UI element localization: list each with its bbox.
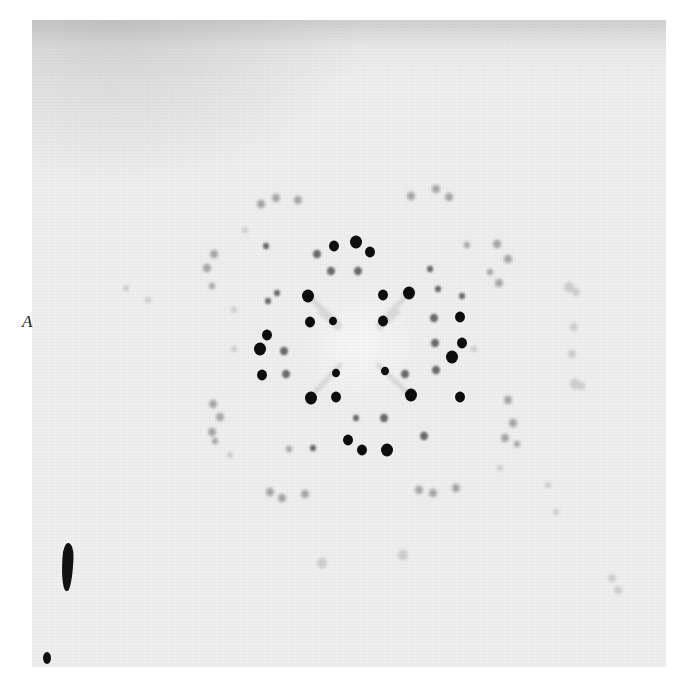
figure-caption-cutoff xyxy=(40,672,660,679)
diffraction-spot xyxy=(614,586,622,595)
diffraction-spot xyxy=(257,200,265,209)
diffraction-spot xyxy=(568,350,576,359)
diffraction-spot xyxy=(266,488,274,497)
diffraction-spot xyxy=(254,343,266,356)
diffraction-spot xyxy=(471,346,477,352)
diffraction-spot xyxy=(504,396,512,405)
diffraction-spot xyxy=(455,312,465,323)
diffraction-spot xyxy=(381,444,393,457)
diffraction-spot xyxy=(210,250,218,259)
diffraction-spot xyxy=(398,550,408,561)
diffraction-spot xyxy=(608,574,616,583)
diffraction-spot-layer xyxy=(32,20,666,667)
diffraction-spot xyxy=(353,415,359,421)
diffraction-spot xyxy=(430,314,438,323)
diffraction-spot xyxy=(459,293,465,299)
diffraction-spot xyxy=(464,242,470,248)
diffraction-spot xyxy=(445,193,453,202)
diffraction-spot xyxy=(378,290,388,301)
diffraction-spot xyxy=(401,370,409,379)
diffraction-spot xyxy=(357,445,367,456)
diffraction-spot xyxy=(429,489,437,498)
diffraction-spot xyxy=(504,255,512,264)
diffraction-spot xyxy=(262,330,272,341)
diffraction-spot xyxy=(208,428,216,437)
diffraction-spot xyxy=(354,267,362,276)
diffraction-spot xyxy=(301,490,309,499)
diffraction-spot xyxy=(242,227,248,233)
diffraction-spot xyxy=(231,307,237,313)
diffraction-spot xyxy=(403,287,415,300)
diffraction-spot xyxy=(572,288,580,297)
diffraction-spot xyxy=(331,392,341,403)
diffraction-spot xyxy=(577,382,585,391)
diffraction-spot xyxy=(209,283,215,289)
diffraction-spot xyxy=(570,323,578,332)
diffraction-spot xyxy=(405,389,417,402)
faint-spots xyxy=(123,227,622,595)
diffraction-spot xyxy=(302,290,314,303)
diffraction-spot xyxy=(420,432,428,441)
diffraction-spot xyxy=(545,482,551,488)
diffraction-spot xyxy=(431,339,439,348)
diffraction-spot xyxy=(317,558,327,569)
diffraction-spot xyxy=(282,370,290,379)
diffraction-spot xyxy=(203,264,211,273)
diffraction-spot xyxy=(145,297,151,303)
diffraction-spot xyxy=(457,338,467,349)
diffraction-spot xyxy=(487,269,493,275)
diffraction-spot xyxy=(446,351,458,364)
diffraction-spot xyxy=(455,392,465,403)
diffraction-spot xyxy=(209,400,217,409)
diffraction-spot xyxy=(305,392,317,405)
diffraction-spot xyxy=(432,366,440,375)
diffraction-spot xyxy=(553,509,559,515)
film-corner-dot xyxy=(43,652,51,664)
diffraction-spot xyxy=(278,494,286,503)
diffraction-spot xyxy=(495,279,503,288)
diffraction-spot xyxy=(212,438,218,444)
diffraction-spot xyxy=(231,346,237,352)
diffraction-spot xyxy=(327,267,335,276)
diffraction-photograph xyxy=(32,20,666,667)
diffraction-spot xyxy=(257,370,267,381)
diffraction-spot xyxy=(501,434,509,443)
diffraction-spot xyxy=(365,247,375,258)
diffraction-spot xyxy=(272,194,280,203)
diffraction-spot xyxy=(227,452,233,458)
diffraction-spot xyxy=(378,316,388,327)
diffraction-spot xyxy=(427,266,433,272)
diffraction-spot xyxy=(123,285,129,291)
panel-label: A xyxy=(22,313,32,330)
diffraction-spot xyxy=(313,250,321,259)
diffraction-spot xyxy=(329,241,339,252)
diffraction-spot xyxy=(493,240,501,249)
diffraction-spot xyxy=(435,286,441,292)
diffraction-spot xyxy=(310,445,316,451)
diffraction-spot xyxy=(274,290,280,296)
diffraction-spot xyxy=(280,347,288,356)
diffraction-spot xyxy=(332,369,340,378)
diffraction-spot xyxy=(216,413,224,422)
diffraction-spot xyxy=(265,298,271,304)
diffraction-spot xyxy=(294,196,302,205)
diffraction-spot xyxy=(350,236,362,249)
diffraction-spot xyxy=(343,435,353,446)
diffraction-spot xyxy=(329,317,337,326)
diffraction-spot xyxy=(514,441,520,447)
diffraction-spot xyxy=(407,192,415,201)
diffraction-spot xyxy=(286,446,292,452)
diffraction-spot xyxy=(381,367,389,376)
diffraction-spot xyxy=(305,317,315,328)
diffraction-spot xyxy=(509,419,517,428)
diffraction-spot xyxy=(452,484,460,493)
figure-page: A xyxy=(0,0,693,679)
diffraction-spot xyxy=(415,486,423,495)
diffraction-spot xyxy=(432,185,440,194)
diffraction-spot xyxy=(380,414,388,423)
diffraction-spot xyxy=(497,465,503,471)
diffraction-spot xyxy=(263,243,269,249)
